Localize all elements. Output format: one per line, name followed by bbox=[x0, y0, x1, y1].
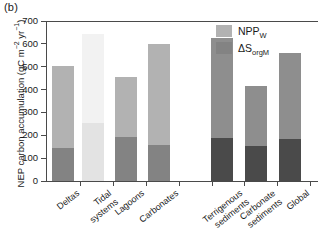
bar-carbonates bbox=[148, 44, 170, 181]
y-tick-label: 300 bbox=[0, 106, 38, 118]
bar-carbonate-sediments bbox=[245, 86, 267, 181]
y-tick-label: 400 bbox=[0, 84, 38, 96]
legend-swatch-sorg-icon bbox=[216, 42, 232, 54]
x-tick-0 bbox=[80, 181, 81, 186]
bar-segment-npp bbox=[115, 77, 137, 137]
x-tick-7 bbox=[310, 181, 311, 186]
bar-terrigenous-sediments bbox=[211, 38, 233, 181]
legend-label-npp-main: NPP bbox=[238, 25, 260, 37]
bar-segment-sorg bbox=[82, 123, 104, 181]
legend-item-npp: NPPW bbox=[216, 24, 312, 39]
bar-segment-sorg bbox=[52, 148, 74, 181]
bar-segment-sorg bbox=[211, 138, 233, 181]
bar-segment-npp bbox=[279, 53, 301, 140]
bar-segment-sorg bbox=[148, 145, 170, 181]
bar-segment-sorg bbox=[279, 139, 301, 181]
bar-lagoons bbox=[115, 77, 137, 181]
legend-item-sorg: ΔSorgM bbox=[216, 41, 312, 56]
legend-label-sorg-sub: orgM bbox=[252, 48, 269, 57]
legend-label-npp-sub: W bbox=[260, 31, 267, 40]
y-tick-label: 700 bbox=[0, 15, 38, 27]
x-tick-5 bbox=[244, 181, 245, 186]
legend: NPPW ΔSorgM bbox=[216, 24, 312, 58]
bar-segment-npp bbox=[82, 34, 104, 123]
x-tick-3 bbox=[179, 181, 180, 186]
y-tick-label: 200 bbox=[0, 129, 38, 141]
bar-tidal-systems bbox=[82, 34, 104, 181]
x-tick-2 bbox=[146, 181, 147, 186]
figure-panel-b: (b) NEP carbon accumulation (gC m−2 yr−1… bbox=[0, 0, 321, 238]
bar-segment-sorg bbox=[115, 137, 137, 181]
legend-label-npp: NPPW bbox=[238, 24, 267, 38]
x-tick-4 bbox=[212, 181, 213, 186]
bar-segment-npp bbox=[148, 44, 170, 145]
legend-swatch-npp-icon bbox=[216, 25, 232, 37]
y-tick-label: 500 bbox=[0, 61, 38, 73]
y-tick-label: 100 bbox=[0, 152, 38, 164]
bar-global bbox=[279, 53, 301, 181]
x-tick-6 bbox=[277, 181, 278, 186]
bar-segment-sorg bbox=[245, 146, 267, 181]
bar-deltas bbox=[52, 66, 74, 181]
legend-label-sorg: ΔSorgM bbox=[238, 41, 269, 55]
panel-label: (b) bbox=[4, 1, 18, 13]
legend-label-sorg-main: ΔS bbox=[238, 42, 252, 54]
y-tick-label: 0 bbox=[0, 175, 38, 187]
x-tick-1 bbox=[113, 181, 114, 186]
bar-segment-npp bbox=[52, 66, 74, 148]
bar-segment-npp bbox=[245, 86, 267, 146]
y-tick-label: 600 bbox=[0, 38, 38, 50]
